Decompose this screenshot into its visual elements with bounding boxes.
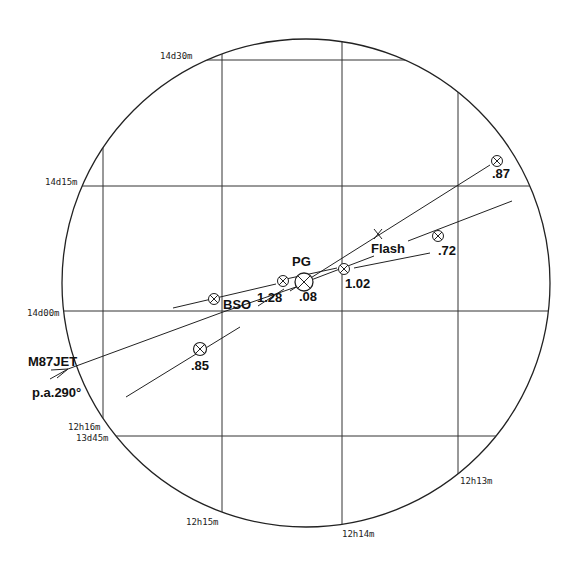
alignment-lines <box>68 165 512 397</box>
object-marker-085 <box>194 343 207 356</box>
object-marker-072 <box>433 231 444 242</box>
value-128: 1.28 <box>257 290 282 305</box>
value-087: .87 <box>492 166 510 181</box>
bso-label: BSO <box>223 297 251 312</box>
jet-label: M87JET <box>28 354 77 369</box>
ra-label-1213: 12h13m <box>460 476 493 486</box>
dec-label-1400: 14d00m <box>27 308 60 318</box>
dec-label-1430: 14d30m <box>160 51 193 61</box>
ra-label-1214: 12h14m <box>342 529 375 539</box>
value-072: .72 <box>438 243 456 258</box>
object-marker-102 <box>339 264 350 275</box>
jet-arrow-icon <box>50 369 68 379</box>
ra-label-1216: 12h16m <box>68 422 101 432</box>
flash-label: Flash <box>371 241 405 256</box>
jet-pa-label: p.a.290° <box>32 385 81 400</box>
finder-chart: 14d30m 14d15m 14d00m 12h16m 13d45m 12h15… <box>0 0 575 565</box>
dec-label-1415: 14d15m <box>45 177 78 187</box>
ra-label-1215: 12h15m <box>186 517 219 527</box>
value-102: 1.02 <box>345 276 370 291</box>
object-marker-128 <box>278 276 289 287</box>
object-marker-bso <box>209 294 220 305</box>
dec-label-1345: 13d45m <box>76 433 109 443</box>
value-085: .85 <box>191 358 209 373</box>
pg-label: PG <box>292 254 311 269</box>
pg-value: .08 <box>299 289 317 304</box>
object-marker-087 <box>492 156 503 167</box>
